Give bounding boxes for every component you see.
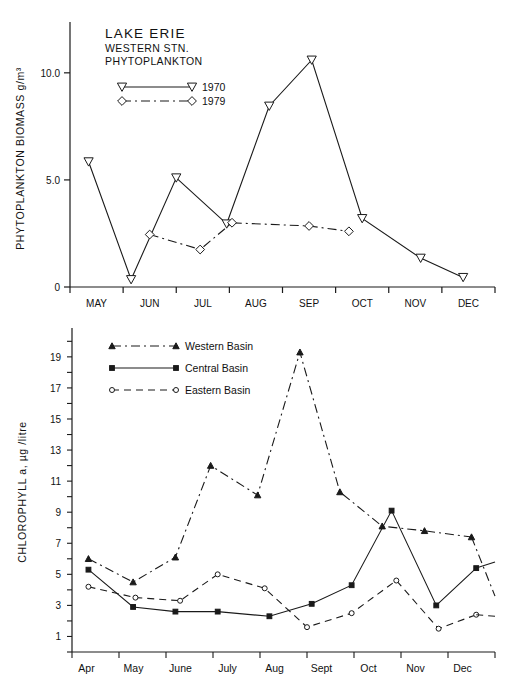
bottom-datapoint-eastern-basin xyxy=(262,586,267,591)
bottom-y-tick-label: 17 xyxy=(50,383,62,394)
bottom-y-tick-label: 15 xyxy=(50,414,62,425)
bottom-legend-marker-start-2 xyxy=(110,388,115,393)
top-y-tick-label: 5.0 xyxy=(46,175,60,186)
bottom-x-tick-label: July xyxy=(218,662,237,674)
top-x-tick-label: NOV xyxy=(404,298,426,309)
top-legend-label-0: 1970 xyxy=(202,81,226,93)
top-title-line-0: LAKE ERIE xyxy=(105,26,186,41)
bottom-datapoint-central-basin xyxy=(215,609,220,614)
bottom-y-tick-label: 3 xyxy=(55,600,61,611)
bottom-y-tick-label: 13 xyxy=(50,445,62,456)
bottom-legend-label-0: Western Basin xyxy=(185,340,253,352)
top-x-tick-label: OCT xyxy=(352,298,373,309)
bottom-y-tick-label: 1 xyxy=(55,631,61,642)
top-datapoint-1970 xyxy=(459,273,468,281)
top-datapoint-1970 xyxy=(265,102,274,110)
top-datapoint-1970 xyxy=(126,276,135,284)
top-chart-series xyxy=(84,56,468,284)
bottom-datapoint-central-basin xyxy=(349,583,354,588)
top-title-line-2: PHYTOPLANKTON xyxy=(105,55,203,67)
bottom-datapoint-eastern-basin xyxy=(178,598,183,603)
bottom-datapoint-central-basin xyxy=(309,601,314,606)
chart-phytoplankton-biomass: 05.010.0MAYJUNJULAUGSEPOCTNOVDECPHYTOPLA… xyxy=(0,0,510,320)
top-x-tick-label: JUN xyxy=(140,298,159,309)
bottom-legend-marker-end-2 xyxy=(174,388,179,393)
bottom-datapoint-western-basin xyxy=(337,489,343,495)
top-legend-marker-start-1 xyxy=(118,97,127,106)
top-datapoint-1979 xyxy=(345,227,354,236)
bottom-y-tick-label: 5 xyxy=(55,569,61,580)
bottom-datapoint-eastern-basin xyxy=(436,626,441,631)
top-chart-legend: 19701979 xyxy=(117,81,225,107)
top-datapoint-1979 xyxy=(305,222,314,231)
bottom-datapoint-western-basin xyxy=(172,554,178,560)
bottom-y-tick-label: 11 xyxy=(51,476,62,487)
bottom-datapoint-eastern-basin xyxy=(215,572,220,577)
bottom-datapoint-central-basin xyxy=(173,609,178,614)
bottom-x-tick-label: Sept xyxy=(311,662,333,674)
chlorophyll-svg: 135791113151719AprMayJuneJulyAugSeptOctN… xyxy=(0,320,510,697)
top-y-axis-title: PHYTOPLANKTON BIOMASS g/m³ xyxy=(14,67,26,250)
phytoplankton-svg: 05.010.0MAYJUNJULAUGSEPOCTNOVDECPHYTOPLA… xyxy=(0,0,510,320)
bottom-legend-marker-end-1 xyxy=(174,366,179,371)
bottom-x-tick-label: Dec xyxy=(453,662,472,674)
bottom-y-tick-label: 19 xyxy=(50,352,62,363)
top-chart-title: LAKE ERIEWESTERN STN.PHYTOPLANKTON xyxy=(105,26,203,67)
bottom-x-tick-label: Aug xyxy=(265,662,284,674)
top-series-line-1979 xyxy=(150,223,349,250)
chart-chlorophyll-a: 135791113151719AprMayJuneJulyAugSeptOctN… xyxy=(0,320,510,697)
bottom-chart-axes: 135791113151719AprMayJuneJulyAugSeptOctN… xyxy=(16,328,495,674)
figure-page: 05.010.0MAYJUNJULAUGSEPOCTNOVDECPHYTOPLA… xyxy=(0,0,510,697)
bottom-series-line-central-basin xyxy=(89,511,477,617)
bottom-y-axis-title: CHLOROPHYLL a, µg /litre xyxy=(16,421,28,562)
top-legend-label-1: 1979 xyxy=(202,95,226,107)
bottom-extra-segment xyxy=(476,562,495,568)
bottom-datapoint-western-basin xyxy=(85,556,91,562)
bottom-datapoint-eastern-basin xyxy=(349,611,354,616)
bottom-y-tick-label: 7 xyxy=(55,538,61,549)
bottom-x-tick-label: May xyxy=(124,662,145,674)
bottom-legend-marker-start-1 xyxy=(110,366,115,371)
bottom-datapoint-central-basin xyxy=(131,605,136,610)
bottom-datapoint-eastern-basin xyxy=(394,578,399,583)
bottom-datapoint-central-basin xyxy=(389,508,394,513)
top-datapoint-1970 xyxy=(84,158,93,166)
top-y-tick-label: 0 xyxy=(54,282,60,293)
top-datapoint-1970 xyxy=(416,254,425,262)
bottom-datapoint-eastern-basin xyxy=(133,595,138,600)
bottom-chart-legend: Western BasinCentral BasinEastern Basin xyxy=(109,340,253,396)
top-x-tick-label: AUG xyxy=(245,298,267,309)
bottom-datapoint-central-basin xyxy=(434,603,439,608)
top-title-line-1: WESTERN STN. xyxy=(105,42,189,54)
bottom-legend-label-2: Eastern Basin xyxy=(185,384,251,396)
top-x-tick-label: DEC xyxy=(458,298,479,309)
bottom-chart-series xyxy=(85,349,495,631)
top-datapoint-1979 xyxy=(196,245,205,254)
bottom-x-tick-label: Apr xyxy=(78,662,95,674)
top-x-tick-label: MAY xyxy=(86,298,107,309)
bottom-datapoint-western-basin xyxy=(297,349,303,355)
bottom-series-line-western-basin xyxy=(89,352,472,582)
bottom-y-tick-label: 9 xyxy=(55,507,61,518)
top-series-line-1970 xyxy=(89,60,464,280)
bottom-datapoint-western-basin xyxy=(207,462,213,468)
bottom-legend-label-1: Central Basin xyxy=(185,362,248,374)
bottom-datapoint-central-basin xyxy=(86,567,91,572)
bottom-datapoint-eastern-basin xyxy=(86,584,91,589)
top-datapoint-1970 xyxy=(358,215,367,223)
bottom-x-tick-label: Oct xyxy=(360,662,376,674)
bottom-series-line-eastern-basin xyxy=(89,574,477,628)
top-x-tick-label: JUL xyxy=(194,298,212,309)
top-chart-axes: 05.010.0MAYJUNJULAUGSEPOCTNOVDECPHYTOPLA… xyxy=(14,22,495,309)
bottom-x-tick-label: June xyxy=(169,662,192,674)
bottom-datapoint-central-basin xyxy=(267,614,272,619)
bottom-datapoint-eastern-basin xyxy=(305,625,310,630)
top-y-tick-label: 10.0 xyxy=(41,68,61,79)
top-x-tick-label: SEP xyxy=(299,298,319,309)
bottom-datapoint-western-basin xyxy=(254,492,260,498)
top-legend-marker-end-1 xyxy=(188,97,197,106)
bottom-x-tick-label: Nov xyxy=(406,662,425,674)
bottom-datapoint-western-basin xyxy=(130,579,136,585)
